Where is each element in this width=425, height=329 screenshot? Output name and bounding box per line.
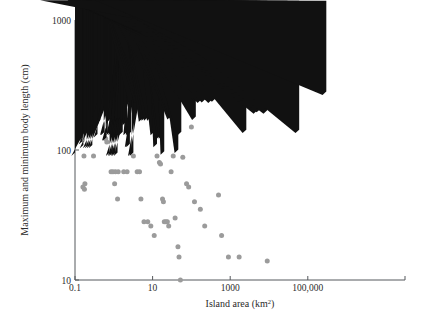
data-point-min (161, 199, 166, 204)
x-axis-title: Island area (km2) (206, 298, 275, 311)
data-point-min (186, 184, 191, 189)
data-point-min (237, 255, 242, 260)
data-point-min (173, 215, 178, 220)
data-point-min (180, 155, 185, 160)
data-point-min (81, 153, 86, 158)
data-point-min (192, 199, 197, 204)
data-point-min (189, 125, 194, 130)
data-point-min (177, 255, 182, 260)
data-point-min (198, 207, 203, 212)
data-point-min (82, 187, 87, 192)
data-point-min (202, 224, 207, 229)
data-point-min (137, 169, 142, 174)
data-point-min (166, 224, 171, 229)
data-point-min (155, 153, 160, 158)
data-point-min (115, 196, 120, 201)
x-tick-label: 1000 (221, 283, 240, 293)
y-tick-label: 10 (62, 276, 72, 286)
data-point-min (104, 140, 109, 145)
scatter-chart-figure: 0.1101000100,000101001000 Island area (k… (0, 0, 425, 329)
data-point-min (169, 169, 174, 174)
x-tick-label: 100,000 (292, 283, 323, 293)
data-point-min (116, 169, 121, 174)
y-axis-title: Maximum and minimum body length (cm) (19, 64, 31, 235)
x-tick-label: 10 (148, 283, 158, 293)
data-point-min (138, 196, 143, 201)
data-point-min (219, 233, 224, 238)
data-point-min (91, 153, 96, 158)
data-point-min (226, 255, 231, 260)
data-point-min (148, 224, 153, 229)
series-maximum-body-length (40, 0, 326, 156)
y-tick-label: 100 (57, 146, 72, 156)
data-point-min (216, 193, 221, 198)
data-point-min (178, 278, 183, 283)
data-point-min (112, 181, 117, 186)
data-point-min (175, 244, 180, 249)
data-point-min (158, 162, 163, 167)
data-point-min (82, 181, 87, 186)
data-point-min (171, 153, 176, 158)
data-point-min (265, 259, 270, 264)
data-point-min (152, 233, 157, 238)
y-tick-label: 1000 (52, 16, 71, 26)
chart-canvas: 0.1101000100,000101001000 Island area (k… (0, 0, 425, 329)
data-point-min (125, 169, 130, 174)
data-point-min (145, 219, 150, 224)
data-point-min (131, 153, 136, 158)
